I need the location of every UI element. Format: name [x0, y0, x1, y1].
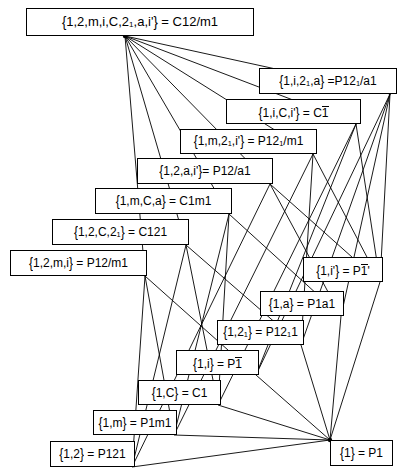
- node-label: {1,m} = P1m1: [95, 417, 174, 429]
- subgroup-lattice-diagram: {1,2,m,i,C,21,a,i'} = C12/m1{1,i,21,a} =…: [0, 0, 398, 475]
- lattice-node-p1211: {1,21} = P1211: [217, 320, 304, 345]
- lattice-node-p1m1: {1,m} = P1m1: [93, 410, 177, 435]
- lattice-node-c1bar: {1,i,C,i'} = C1: [226, 99, 361, 124]
- node-label: {1,C} = C1: [149, 387, 211, 399]
- lattice-node-p121m1: {1,m,21,i'} = P121/m1: [180, 129, 317, 154]
- lattice-node-c1m1: {1,m,C,a} = C1m1: [95, 188, 232, 214]
- node-label: {1,2,m,i,C,21,a,i'} = C12/m1: [59, 15, 221, 30]
- node-label: {1,2} = P121: [56, 448, 128, 460]
- lattice-node-c121: {1,2,C,21} = C121: [52, 219, 189, 245]
- lattice-node-p1a1: {1,a} = P1a1: [260, 291, 344, 316]
- lattice-node-p121: {1,2} = P121: [50, 441, 135, 467]
- node-label: {1,2,a,i'}= P12/a1: [156, 165, 253, 177]
- lattice-node-p1: {1} = P1: [330, 440, 393, 466]
- node-label: {1,2,C,21} = C121: [71, 226, 170, 239]
- node-label: {1,a} = P1a1: [266, 298, 338, 310]
- node-label: {1,i,C,i'} = C1: [255, 105, 331, 119]
- node-label: {1,m,21,i'} = P121/m1: [191, 135, 307, 148]
- lattice-node-p121a1: {1,i,21,a} =P121/a1: [259, 68, 397, 94]
- node-label: {1,21} = P1211: [220, 326, 301, 339]
- node-label: {1,m,C,a} = C1m1: [113, 195, 215, 207]
- lattice-node-c12m1: {1,2,m,i,C,21,a,i'} = C12/m1: [26, 8, 254, 36]
- node-label: {1,i} = P1: [190, 356, 245, 370]
- lattice-node-p12m1: {1,2,m,i} = P12/m1: [10, 250, 147, 276]
- lattice-node-p12a1: {1,2,a,i'}= P12/a1: [137, 158, 273, 184]
- node-layer: {1,2,m,i,C,21,a,i'} = C12/m1{1,i,21,a} =…: [0, 0, 398, 475]
- node-label: {1} = P1: [337, 447, 386, 459]
- node-label: {1,i'} = P1': [313, 263, 373, 277]
- lattice-node-p1bar: {1,i'} = P1': [303, 257, 383, 282]
- lattice-node-p1bar: {1,i} = P1: [176, 350, 259, 375]
- node-label: {1,i,21,a} =P121/a1: [276, 75, 379, 88]
- node-label: {1,2,m,i} = P12/m1: [26, 257, 131, 269]
- lattice-node-c1: {1,C} = C1: [138, 380, 221, 405]
